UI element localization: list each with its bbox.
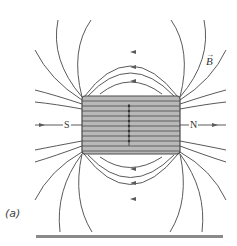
north-pole-label: N: [189, 120, 198, 130]
solenoid-field-diagram: [0, 0, 237, 246]
field-vector-label: → B: [206, 56, 213, 67]
vector-arrow-icon: →: [206, 51, 214, 59]
figure-caption: (a): [5, 208, 20, 219]
solenoid-core: [82, 96, 180, 154]
bottom-divider: [36, 235, 223, 238]
south-pole-label: S: [63, 120, 71, 130]
